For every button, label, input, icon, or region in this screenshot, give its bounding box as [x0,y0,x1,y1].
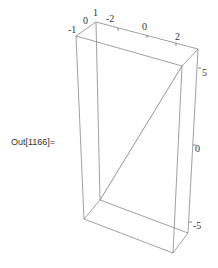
z-tick-5: 5 [202,67,207,78]
z-tick-neg5: -5 [193,220,201,231]
y-tick-0: 0 [142,21,147,32]
tick-marks [118,28,201,222]
y-tick-neg2: -2 [106,13,114,24]
x-tick-1: 1 [93,7,98,18]
y-tick-2: 2 [175,31,180,42]
x-tick-0: 0 [83,15,88,26]
diagonal-segment [100,66,182,200]
plot-3d-graphic[interactable]: -1 0 1 -2 0 2 5 0 -5 [0,0,218,268]
z-tick-0: 0 [195,143,200,154]
bounding-box [76,22,198,253]
x-tick-neg1: -1 [68,24,76,35]
